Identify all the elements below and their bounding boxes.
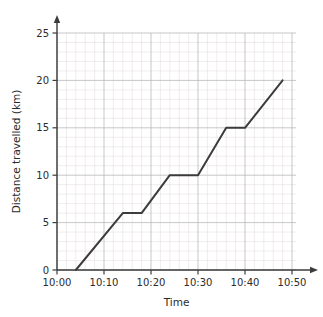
distance-time-chart: 10:0010:1010:2010:3010:4010:50 051015202…: [0, 0, 323, 317]
y-tick-label: 20: [36, 75, 49, 86]
x-tick-label: 10:00: [43, 277, 72, 288]
x-tick-label: 10:30: [184, 277, 213, 288]
y-tick-label: 10: [36, 170, 49, 181]
chart-canvas: 10:0010:1010:2010:3010:4010:50 051015202…: [0, 0, 323, 317]
y-axis-title: Distance travelled (km): [10, 90, 22, 214]
x-tick-label: 10:10: [90, 277, 119, 288]
x-tick-label: 10:40: [231, 277, 260, 288]
x-axis-title: Time: [163, 296, 190, 308]
y-tick-label: 5: [43, 217, 49, 228]
y-tick-label: 15: [36, 122, 49, 133]
y-tick-label: 25: [36, 28, 49, 39]
x-tick-label: 10:20: [137, 277, 166, 288]
y-tick-label: 0: [43, 265, 49, 276]
x-tick-label: 10:50: [278, 277, 307, 288]
